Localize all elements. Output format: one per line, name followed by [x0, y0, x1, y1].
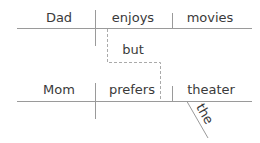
- clause1-object: movies: [187, 10, 234, 25]
- conjunction-word: but: [122, 42, 144, 57]
- clause1-subject: Dad: [46, 10, 72, 25]
- clause1-verb: enjoys: [112, 10, 154, 25]
- clause2-subject: Mom: [43, 82, 75, 97]
- diagram-canvas: Dad enjoys movies but Mom prefers theate…: [0, 0, 260, 143]
- sentence-diagram: Dad enjoys movies but Mom prefers theate…: [0, 0, 260, 143]
- clause2-verb: prefers: [109, 82, 155, 97]
- clause2-object: theater: [187, 82, 235, 97]
- modifier-word: the: [193, 101, 217, 127]
